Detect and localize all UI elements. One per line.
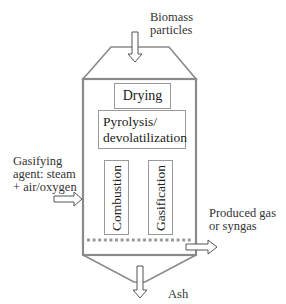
zone-combustion: Combustion [104, 160, 129, 235]
produced-gas-label: Produced gas or syngas [209, 207, 276, 233]
ash-label: Ash [168, 288, 188, 301]
gasifier-vessel-drawing [0, 0, 286, 304]
arrow-right-icon [186, 240, 217, 254]
gasifying-agent-label: Gasifying agent: steam + air/oxygen [13, 155, 77, 194]
gas-label-line2: or syngas [209, 220, 276, 233]
zone-pyrolysis-label-line1: Pyrolysis/ [103, 114, 157, 130]
zone-gasification-label: Gasification [153, 165, 169, 231]
zone-pyrolysis: Pyrolysis/ devolatilization [98, 110, 186, 149]
zone-drying-label: Drying [123, 88, 163, 104]
biomass-feed-label: Biomass particles [150, 11, 193, 37]
zone-gasification: Gasification [148, 160, 173, 235]
zone-pyrolysis-label-line2: devolatilization [103, 130, 187, 146]
arrow-right-icon [54, 192, 82, 206]
agent-label-line3: + air/oxygen [13, 181, 77, 194]
zone-combustion-label: Combustion [109, 164, 125, 230]
top-hopper [83, 47, 196, 79]
zone-drying: Drying [114, 83, 171, 109]
biomass-label-line2: particles [150, 24, 193, 37]
